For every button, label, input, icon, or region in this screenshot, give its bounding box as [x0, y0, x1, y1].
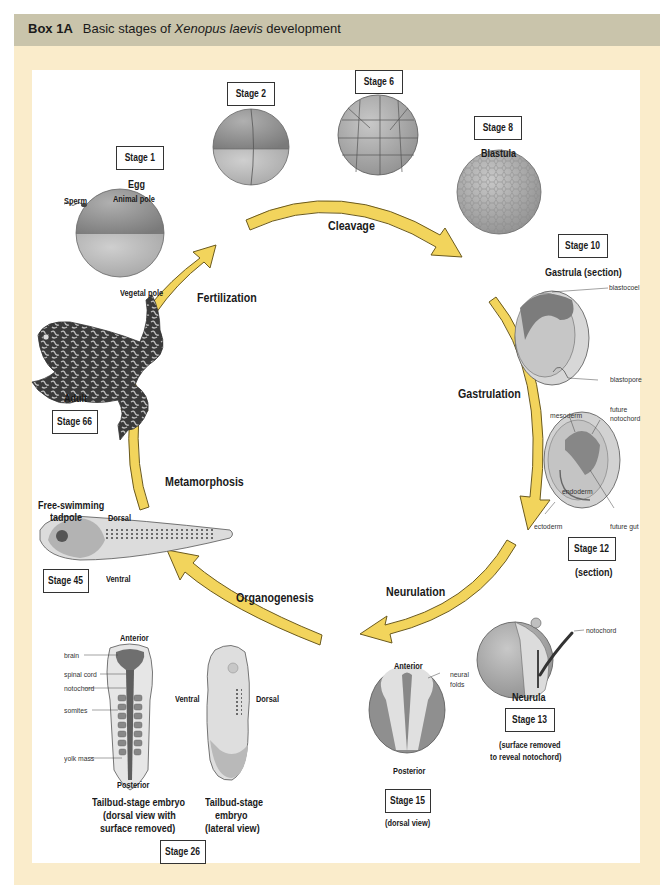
- neurula-illustration: [477, 618, 584, 698]
- tadpole-dorsal-label: Dorsal: [108, 513, 131, 523]
- section-note: (section): [575, 566, 613, 578]
- neurula-note-2: to reveal notochord): [490, 752, 561, 762]
- stage15-posterior-label: Posterior: [393, 766, 425, 776]
- stage-26-box: Stage 26: [160, 840, 206, 864]
- gastrula-illustration: [515, 288, 608, 385]
- animal-pole-label: Animal pole: [113, 194, 155, 204]
- gastrula-section-label: Gastrula (section): [545, 266, 622, 278]
- stage-10-box: Stage 10: [558, 234, 608, 258]
- stage15-illustration: [369, 666, 445, 753]
- stage-10-label: Stage 10: [566, 235, 601, 257]
- lateral-caption-2: embryo: [215, 809, 248, 821]
- tadpole-label: tadpole: [50, 511, 82, 523]
- spinal-cord-label: spinal cord: [64, 670, 97, 679]
- future-gut-label: future gut: [610, 522, 639, 531]
- blastopore-label: blastopore: [610, 375, 642, 384]
- stage-1-box: Stage 1: [116, 146, 164, 170]
- yolk-mass-label: yolk mass: [64, 754, 94, 763]
- process-gastrulation: Gastrulation: [458, 386, 521, 401]
- tadpole-ventral-label: Ventral: [106, 574, 131, 584]
- life-cycle-illustration: [0, 0, 667, 890]
- stage-1-label: Stage 1: [125, 147, 155, 169]
- lateral-caption-1: Tailbud-stage: [205, 796, 263, 808]
- neural-folds-label-1: neural: [450, 670, 469, 679]
- stage-26-label: Stage 26: [166, 841, 201, 863]
- dorsal-label: Dorsal: [256, 694, 279, 704]
- blastula-label: Blastula: [481, 147, 516, 159]
- future-notochord-label-2: notochord: [610, 414, 640, 423]
- stage26-anterior-label: Anterior: [120, 633, 149, 643]
- mesoderm-label: mesoderm: [550, 411, 582, 420]
- stage-2-label: Stage 2: [236, 83, 266, 105]
- future-notochord-label-1: future: [610, 405, 627, 414]
- process-metamorphosis: Metamorphosis: [165, 474, 244, 489]
- stage-2-box: Stage 2: [227, 82, 275, 106]
- dorsal-caption-2: (dorsal view with: [103, 809, 176, 821]
- blastula-illustration: [457, 150, 541, 234]
- adult-label: Adult: [64, 392, 87, 404]
- stage-12-label: Stage 12: [575, 538, 610, 560]
- dorsal-caption-3: surface removed): [100, 822, 175, 834]
- stage-8-label: Stage 8: [483, 117, 513, 139]
- dorsal-caption-1: Tailbud-stage embryo: [92, 796, 185, 808]
- stage-66-label: Stage 66: [58, 411, 93, 433]
- ectoderm-label: ectoderm: [534, 522, 562, 531]
- vegetal-pole-label: Vegetal pole: [120, 288, 163, 298]
- neurula-note-1: (surface removed: [499, 740, 561, 750]
- ventral-label: Ventral: [175, 694, 200, 704]
- process-neurulation: Neurulation: [386, 584, 445, 599]
- stage-15-label: Stage 15: [391, 790, 426, 812]
- blastocoel-label: blastocoel: [609, 283, 640, 292]
- stage-66-box: Stage 66: [52, 410, 98, 434]
- process-organogenesis: Organogenesis: [236, 590, 314, 605]
- notochord-part-label: notochord: [64, 684, 94, 693]
- stage-6-label: Stage 6: [364, 71, 394, 93]
- stage12-gastrula-illustration: [544, 412, 620, 514]
- tailbud-dorsal-illustration: [84, 644, 153, 790]
- lateral-caption-3: (lateral view): [205, 822, 260, 834]
- somites-label: somites: [64, 706, 87, 715]
- notochord-label: notochord: [586, 626, 616, 635]
- process-fertilization: Fertilization: [197, 290, 257, 305]
- stage2-illustration: [213, 109, 289, 187]
- stage-12-box: Stage 12: [568, 537, 616, 561]
- neural-folds-label-2: folds: [450, 680, 464, 689]
- neurula-label: Neurula: [512, 691, 546, 703]
- process-arrows: [121, 201, 550, 645]
- stage26-posterior-label: Posterior: [117, 780, 149, 790]
- stage-13-label: Stage 13: [513, 709, 548, 731]
- free-swimming-label: Free-swimming: [38, 499, 104, 511]
- stage-45-box: Stage 45: [43, 569, 89, 593]
- egg-label: Egg: [128, 178, 145, 190]
- dorsal-view-note: (dorsal view): [385, 818, 430, 828]
- process-cleavage: Cleavage: [328, 218, 375, 233]
- stage-15-box: Stage 15: [385, 789, 431, 813]
- stage-45-label: Stage 45: [49, 570, 84, 592]
- stage15-anterior-label: Anterior: [394, 661, 423, 671]
- brain-label: brain: [64, 651, 79, 660]
- stage-6-box: Stage 6: [355, 70, 403, 94]
- endoderm-label: endoderm: [562, 487, 593, 496]
- tailbud-lateral-illustration: [207, 645, 250, 780]
- stage-13-box: Stage 13: [505, 708, 555, 732]
- sperm-label: Sperm: [64, 196, 87, 206]
- stage6-illustration: [338, 95, 418, 175]
- stage-8-box: Stage 8: [474, 116, 522, 140]
